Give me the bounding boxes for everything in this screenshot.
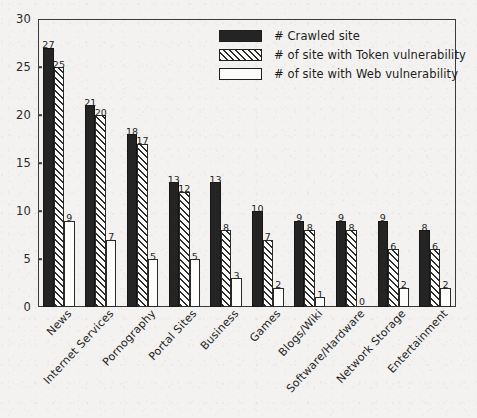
bar-value-label: 9 [66, 213, 72, 223]
bar[interactable]: 1 [315, 297, 326, 307]
bar[interactable]: 25 [54, 67, 65, 307]
bar[interactable]: 6 [430, 249, 441, 307]
bar[interactable]: 3 [231, 278, 242, 307]
bar[interactable]: 7 [106, 240, 117, 307]
bar[interactable]: 13 [169, 182, 180, 307]
bar[interactable]: 9 [64, 221, 75, 307]
y-axis-tick-label: 20 [16, 108, 31, 122]
bar[interactable]: 7 [263, 240, 274, 307]
bar-value-label: 2 [275, 280, 281, 290]
y-axis-tick-mark [38, 210, 42, 212]
legend-item[interactable]: # of site with Token vulnerability [219, 48, 466, 62]
bar-value-label: 6 [432, 242, 438, 252]
bar-value-label: 10 [251, 204, 263, 214]
bar[interactable]: 9 [336, 221, 347, 307]
bar[interactable]: 18 [127, 134, 138, 307]
legend-item-label: # Crawled site [274, 29, 360, 43]
bar[interactable]: 6 [388, 249, 399, 307]
y-axis-tick-mark [38, 162, 42, 164]
bar[interactable]: 5 [148, 259, 159, 307]
bar[interactable]: 9 [378, 221, 389, 307]
bar-value-label: 27 [42, 40, 54, 50]
y-axis-tick-mark [38, 258, 42, 260]
legend-item-label: # of site with Token vulnerability [274, 48, 466, 62]
bar-value-label: 5 [192, 252, 198, 262]
chart-page: 051015202530 272592120718175131251383107… [0, 0, 477, 418]
bar[interactable]: 10 [252, 211, 263, 307]
x-axis-label: Software/Hardware [283, 307, 367, 395]
bar[interactable]: 8 [221, 230, 232, 307]
bar-value-label: 12 [178, 184, 190, 194]
y-axis-tick-label: 10 [16, 204, 31, 218]
bar-value-label: 25 [53, 60, 65, 70]
bar[interactable]: 8 [419, 230, 430, 307]
bar[interactable]: 17 [137, 144, 148, 307]
bar[interactable]: 8 [304, 230, 315, 307]
bar[interactable]: 2 [399, 288, 410, 307]
bar-value-label: 20 [95, 108, 107, 118]
bar[interactable]: 21 [85, 105, 96, 307]
bar-group: 18175 [127, 19, 159, 307]
bar-value-label: 6 [390, 242, 396, 252]
bar-group: 27259 [43, 19, 75, 307]
legend-item[interactable]: # Crawled site [219, 29, 466, 43]
bar[interactable]: 20 [95, 115, 106, 307]
x-axis-labels: NewsInternet ServicesPornographyPortal S… [38, 307, 456, 418]
bar-value-label: 1 [317, 290, 323, 300]
legend-item[interactable]: # of site with Web vulnerability [219, 67, 466, 81]
legend-swatch-icon [219, 68, 262, 80]
bar-value-label: 8 [422, 223, 428, 233]
chart-legend: # Crawled site# of site with Token vulne… [219, 29, 466, 81]
bar-value-label: 2 [401, 280, 407, 290]
y-axis: 051015202530 [0, 0, 38, 418]
bar-value-label: 9 [296, 213, 302, 223]
bar[interactable]: 13 [210, 182, 221, 307]
bar[interactable]: 2 [440, 288, 451, 307]
bar[interactable]: 2 [273, 288, 284, 307]
bar-value-label: 8 [348, 223, 354, 233]
y-axis-tick-label: 0 [23, 300, 31, 314]
bar[interactable]: 27 [43, 48, 54, 307]
bar-group: 13125 [169, 19, 201, 307]
y-axis-tick-label: 5 [23, 252, 31, 266]
y-axis-tick-label: 30 [16, 12, 31, 26]
bar-value-label: 0 [359, 297, 365, 307]
x-axis-label: Games [247, 307, 283, 345]
bar-value-label: 9 [380, 213, 386, 223]
bar-value-label: 2 [443, 280, 449, 290]
legend-swatch-icon [219, 49, 262, 61]
legend-item-label: # of site with Web vulnerability [274, 67, 458, 81]
x-axis-label: Business [198, 307, 242, 353]
bar-value-label: 7 [108, 232, 114, 242]
bar[interactable]: 5 [190, 259, 201, 307]
y-axis-tick-mark [38, 66, 42, 68]
bar-value-label: 13 [210, 175, 222, 185]
y-axis-tick-label: 25 [16, 60, 31, 74]
x-axis-label: News [44, 307, 74, 338]
bar[interactable]: 8 [346, 230, 357, 307]
bar-value-label: 8 [307, 223, 313, 233]
bar-value-label: 8 [223, 223, 229, 233]
bar-value-label: 5 [150, 252, 156, 262]
legend-swatch-icon [219, 30, 262, 42]
bar-group: 21207 [85, 19, 117, 307]
bar-value-label: 7 [265, 232, 271, 242]
bar[interactable]: 12 [179, 192, 190, 307]
y-axis-tick-mark [38, 114, 42, 116]
y-axis-tick-label: 15 [16, 156, 31, 170]
bar[interactable]: 9 [294, 221, 305, 307]
bar-value-label: 17 [136, 136, 148, 146]
bar-value-label: 9 [338, 213, 344, 223]
x-axis-label: Internet Services [41, 307, 117, 387]
bar-value-label: 3 [234, 271, 240, 281]
